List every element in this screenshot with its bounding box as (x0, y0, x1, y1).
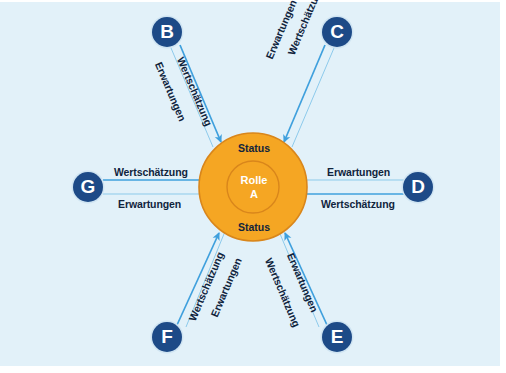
node-d[interactable]: D (403, 172, 433, 202)
node-g[interactable]: G (73, 172, 103, 202)
edge-label-g-wertschaetzung: Wertschätzung (114, 166, 188, 178)
node-b-label: B (160, 21, 174, 42)
edge-label-d-wertschaetzung: Wertschätzung (321, 198, 395, 210)
node-c-label: C (330, 21, 344, 42)
node-d-label: D (411, 176, 425, 197)
edge-label-g-erwartungen: Erwartungen (118, 198, 181, 210)
core-role-line1: Rolle (231, 174, 277, 187)
core-status-top: Status (228, 142, 280, 154)
diagram-canvas: B C D E F G Status Status Rolle A Wertsc… (0, 0, 506, 373)
node-f-label: F (161, 326, 173, 347)
node-c[interactable]: C (322, 17, 352, 47)
node-f[interactable]: F (152, 322, 182, 352)
node-g-label: G (81, 176, 96, 197)
core-role-line2: A (231, 188, 277, 201)
edge-c-outbound (292, 48, 334, 147)
edge-label-d-erwartungen: Erwartungen (327, 166, 390, 178)
core-status-bottom: Status (228, 221, 280, 233)
edge-c-inbound (284, 45, 325, 142)
core-inner-circle (227, 161, 279, 213)
node-e-label: E (331, 326, 344, 347)
node-b[interactable]: B (152, 17, 182, 47)
node-e[interactable]: E (322, 322, 352, 352)
